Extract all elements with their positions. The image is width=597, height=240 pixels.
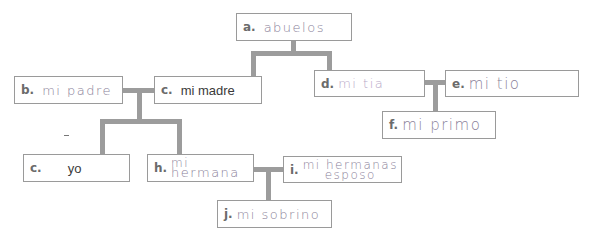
node-j-sobrino: j. mi sobrino [217,200,332,228]
node-text: mi sobrino [237,207,321,222]
node-a-abuelos: a. abuelos [236,13,352,41]
node-letter: a. [243,20,256,34]
node-text-line2: hermana [171,168,240,178]
connector-d-e-down [433,80,438,112]
node-b-padre: b. mi padre [14,76,123,104]
node-c-madre: c. mi madre [154,76,262,104]
connector-children-horizontal [100,119,182,124]
node-text: mi primo [402,116,481,134]
node-text: abuelos [264,20,325,35]
node-text: mi hermanas esposo [303,160,398,180]
node-letter: d. [321,77,334,91]
node-text: mi tia [338,76,384,91]
connector-a-horizontal [251,51,332,56]
node-letter: f. [389,118,398,132]
node-text: mi hermana [171,158,240,178]
connector-a-right-drop [327,51,332,71]
node-letter: j. [224,207,233,221]
node-text: mi tio [469,75,521,93]
connector-yo-drop [100,119,105,155]
node-letter: i. [290,163,299,177]
connector-a-left-drop [251,51,256,77]
node-i-esposo: i. mi hermanas esposo [283,156,402,183]
stray-mark [64,135,69,136]
node-letter: e. [452,77,465,91]
node-text: yo [68,161,82,176]
connector-parents-down [137,88,142,122]
connector-h-drop [177,119,182,155]
connector-h-i-down [266,167,271,201]
node-text: mi madre [181,83,235,98]
node-text: mi padre [42,83,112,98]
node-letter: b. [21,83,34,97]
node-f-primo: f. mi primo [382,111,496,139]
node-letter: h. [154,161,167,175]
node-e-tio: e. mi tio [445,70,579,97]
node-text-line2: esposo [303,170,398,180]
node-c-yo: c. yo [23,154,130,182]
node-letter: c. [30,161,42,175]
node-letter: c. [161,83,173,97]
node-d-tia: d. mi tia [314,70,425,97]
node-h-hermana: h. mi hermana [147,154,254,182]
